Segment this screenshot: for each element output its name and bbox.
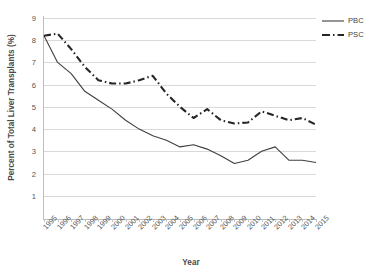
y-tick-label: 4 [12,125,36,134]
x-axis-title: Year [0,258,382,267]
series-line-pbc [44,36,316,164]
y-tick-label: 5 [12,102,36,111]
series-line-psc [44,34,316,125]
legend-label-pbc: PBC [348,16,364,26]
plot-area [44,18,316,218]
y-tick-label: 8 [12,36,36,45]
y-tick-label: 1 [12,191,36,200]
series-lines [44,18,316,218]
y-axis-ticks: 987654321 [8,0,36,225]
legend-swatch-dashdot-icon [322,30,344,40]
y-tick-label: 7 [12,58,36,67]
legend-swatch-solid-icon [322,16,344,26]
legend-label-psc: PSC [348,30,364,40]
y-tick-label: 6 [12,80,36,89]
legend-item-pbc[interactable]: PBC [322,14,364,28]
y-tick-label: 9 [12,14,36,23]
line-chart: Percent of Total Liver Transplants (%) 9… [0,0,382,277]
y-tick-label: 3 [12,147,36,156]
y-tick-label: 2 [12,169,36,178]
chart-legend: PBC PSC [322,14,364,42]
legend-item-psc[interactable]: PSC [322,28,364,42]
